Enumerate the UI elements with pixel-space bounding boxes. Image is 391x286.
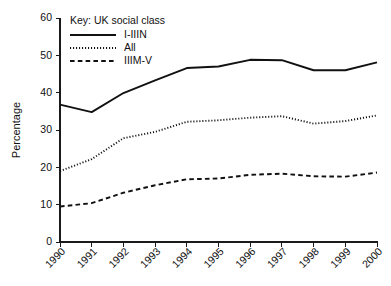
series-line-i-iiin xyxy=(60,60,377,112)
x-tick-label: 1990 xyxy=(42,245,67,270)
x-tick-label: 1992 xyxy=(106,245,131,270)
x-tick-label: 1995 xyxy=(201,245,226,270)
y-tick-label: 40 xyxy=(40,86,52,98)
x-tick-label: 1996 xyxy=(233,245,258,270)
x-tick-label: 1997 xyxy=(264,245,289,270)
chart-legend: Key: UK social class I-IIINAllIIIM-V xyxy=(70,14,165,66)
y-axis-title-group: Percentage xyxy=(10,102,22,158)
y-tick-label: 0 xyxy=(46,235,52,247)
y-tick-label: 20 xyxy=(40,161,52,173)
legend-label-iiim-v: IIIM-V xyxy=(124,54,152,66)
x-tick-label: 1994 xyxy=(169,245,194,270)
x-tick-label: 1998 xyxy=(296,245,321,270)
y-tick-label: 60 xyxy=(40,11,52,23)
y-axis-title: Percentage xyxy=(10,102,22,158)
series-line-all xyxy=(60,115,377,171)
chart-container: Percentage 0102030405060 199019911992199… xyxy=(0,0,391,286)
x-axis-ticks: 1990199119921993199419951996199719981999… xyxy=(42,242,384,270)
series-line-iiim-v xyxy=(60,173,377,207)
y-axis-ticks: 0102030405060 xyxy=(40,11,60,247)
line-chart: Percentage 0102030405060 199019911992199… xyxy=(0,0,391,286)
x-tick-label: 1993 xyxy=(138,245,163,270)
legend-title: Key: UK social class xyxy=(70,14,165,26)
y-tick-label: 30 xyxy=(40,123,52,135)
x-tick-label: 1991 xyxy=(74,245,99,270)
x-tick-label: 1999 xyxy=(328,245,353,270)
legend-label-all: All xyxy=(124,41,136,53)
series-group xyxy=(60,60,377,207)
y-tick-label: 10 xyxy=(40,198,52,210)
legend-label-i-iiin: I-IIIN xyxy=(124,28,147,40)
y-tick-label: 50 xyxy=(40,49,52,61)
x-tick-label: 2000 xyxy=(359,245,384,270)
